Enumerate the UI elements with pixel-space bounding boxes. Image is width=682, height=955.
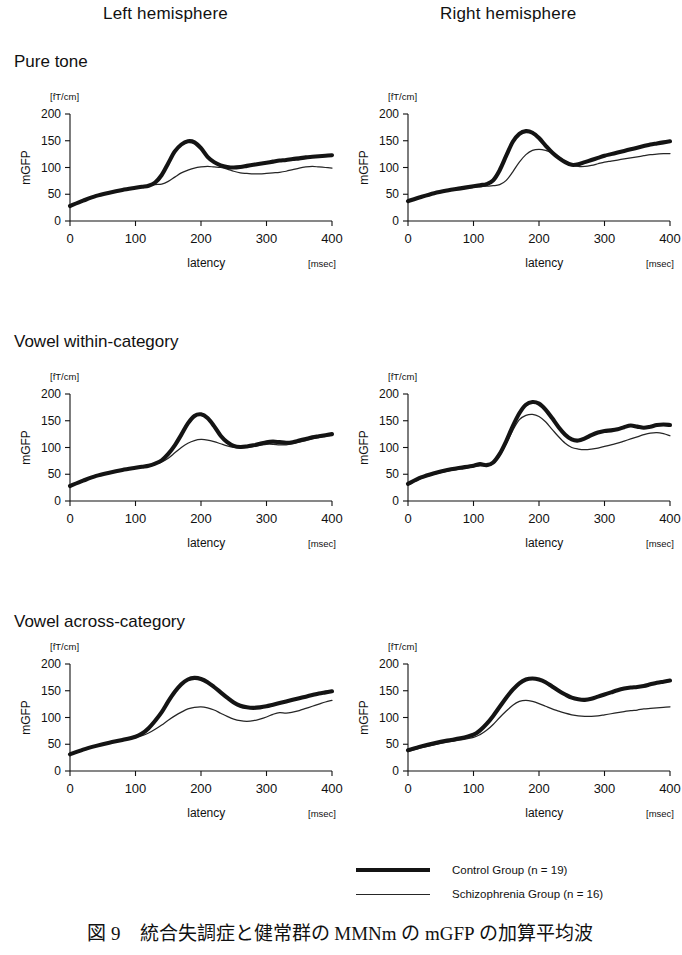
y-axis-label: mGFP	[19, 150, 33, 185]
svg-text:400: 400	[659, 511, 681, 526]
x-axis-unit: [msec]	[646, 538, 674, 549]
chart-panel-vowel-within-category-left: [fT/cm]0501001502000100200300400mGFPlate…	[14, 368, 344, 563]
legend-item-schizophrenia: Schizophrenia Group (n = 16)	[356, 882, 676, 906]
svg-text:0: 0	[404, 511, 411, 526]
svg-text:200: 200	[528, 511, 550, 526]
svg-text:400: 400	[321, 231, 343, 246]
condition-title-vowel-across-category: Vowel across-category	[14, 612, 185, 632]
svg-text:400: 400	[321, 511, 343, 526]
svg-text:0: 0	[66, 511, 73, 526]
svg-text:150: 150	[41, 684, 61, 698]
trace-schizophrenia-group	[408, 700, 670, 751]
legend-swatch-control-line	[356, 868, 430, 872]
svg-text:200: 200	[41, 387, 61, 401]
x-axis-unit: [msec]	[646, 258, 674, 269]
chart-panel-pure-tone-left: [fT/cm]0501001502000100200300400mGFPlate…	[14, 88, 344, 283]
svg-text:0: 0	[392, 764, 399, 778]
svg-text:0: 0	[404, 781, 411, 796]
svg-text:150: 150	[379, 134, 399, 148]
y-axis-unit: [fT/cm]	[388, 91, 417, 102]
svg-text:400: 400	[659, 231, 681, 246]
svg-text:200: 200	[41, 657, 61, 671]
svg-text:50: 50	[48, 187, 62, 201]
y-axis-unit: [fT/cm]	[50, 641, 79, 652]
svg-text:50: 50	[386, 467, 400, 481]
y-axis-label: mGFP	[19, 430, 33, 465]
svg-text:200: 200	[528, 231, 550, 246]
x-axis-label: latency	[187, 536, 225, 550]
svg-text:300: 300	[594, 231, 616, 246]
svg-text:300: 300	[256, 781, 278, 796]
svg-text:0: 0	[392, 494, 399, 508]
svg-text:100: 100	[125, 231, 147, 246]
y-axis-unit: [fT/cm]	[50, 371, 79, 382]
x-axis-unit: [msec]	[308, 808, 336, 819]
trace-control-group	[70, 678, 332, 755]
svg-text:200: 200	[379, 387, 399, 401]
x-axis-label: latency	[187, 256, 225, 270]
column-header-right-hemisphere: Right hemisphere	[440, 4, 576, 24]
svg-text:100: 100	[463, 511, 485, 526]
svg-text:100: 100	[41, 441, 61, 455]
svg-text:100: 100	[41, 711, 61, 725]
svg-text:100: 100	[463, 231, 485, 246]
trace-control-group	[70, 414, 332, 486]
x-axis-unit: [msec]	[646, 808, 674, 819]
svg-text:200: 200	[190, 781, 212, 796]
svg-text:200: 200	[190, 231, 212, 246]
chart-panel-vowel-across-category-left: [fT/cm]0501001502000100200300400mGFPlate…	[14, 638, 344, 833]
x-axis-label: latency	[525, 256, 563, 270]
svg-text:0: 0	[392, 214, 399, 228]
y-axis-unit: [fT/cm]	[388, 371, 417, 382]
figure-caption: 図 9 統合失調症と健常群の MMNm の mGFP の加算平均波	[0, 918, 680, 945]
trace-control-group	[408, 131, 670, 201]
trace-control-group	[408, 402, 670, 484]
svg-text:0: 0	[54, 214, 61, 228]
y-axis-unit: [fT/cm]	[388, 641, 417, 652]
svg-text:300: 300	[594, 511, 616, 526]
trace-schizophrenia-group	[408, 149, 670, 201]
svg-text:200: 200	[190, 511, 212, 526]
trace-control-group	[408, 678, 670, 750]
svg-text:100: 100	[125, 511, 147, 526]
trace-control-group	[70, 141, 332, 206]
condition-title-vowel-within-category: Vowel within-category	[14, 332, 178, 352]
svg-text:0: 0	[66, 781, 73, 796]
svg-text:200: 200	[41, 107, 61, 121]
trace-schizophrenia-group	[70, 700, 332, 754]
svg-text:100: 100	[463, 781, 485, 796]
svg-text:100: 100	[41, 161, 61, 175]
svg-text:100: 100	[379, 441, 399, 455]
legend-label-control: Control Group (n = 19)	[430, 864, 567, 876]
x-axis-unit: [msec]	[308, 538, 336, 549]
svg-text:150: 150	[379, 684, 399, 698]
svg-text:0: 0	[54, 764, 61, 778]
chart-panel-pure-tone-right: [fT/cm]0501001502000100200300400mGFPlate…	[352, 88, 682, 283]
svg-text:200: 200	[379, 107, 399, 121]
svg-text:50: 50	[48, 467, 62, 481]
svg-text:0: 0	[66, 231, 73, 246]
x-axis-label: latency	[525, 536, 563, 550]
x-axis-label: latency	[525, 806, 563, 820]
svg-text:150: 150	[41, 134, 61, 148]
y-axis-label: mGFP	[357, 150, 371, 185]
legend-label-schizophrenia: Schizophrenia Group (n = 16)	[430, 888, 603, 900]
y-axis-label: mGFP	[357, 700, 371, 735]
svg-text:400: 400	[659, 781, 681, 796]
x-axis-label: latency	[187, 806, 225, 820]
svg-text:50: 50	[386, 187, 400, 201]
svg-text:400: 400	[321, 781, 343, 796]
svg-text:100: 100	[379, 161, 399, 175]
y-axis-label: mGFP	[19, 700, 33, 735]
trace-schizophrenia-group	[70, 166, 332, 206]
svg-text:0: 0	[54, 494, 61, 508]
svg-text:150: 150	[41, 414, 61, 428]
svg-text:50: 50	[48, 737, 62, 751]
svg-text:300: 300	[256, 511, 278, 526]
column-header-left-hemisphere: Left hemisphere	[103, 4, 228, 24]
svg-text:0: 0	[404, 231, 411, 246]
chart-panel-vowel-within-category-right: [fT/cm]0501001502000100200300400mGFPlate…	[352, 368, 682, 563]
legend-swatch-schizophrenia-line	[356, 894, 430, 895]
y-axis-unit: [fT/cm]	[50, 91, 79, 102]
x-axis-unit: [msec]	[308, 258, 336, 269]
